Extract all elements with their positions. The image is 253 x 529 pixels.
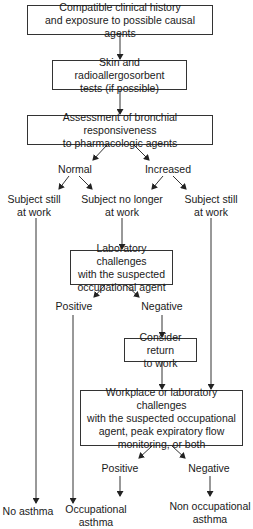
label-wp-negative: Negative: [186, 462, 232, 475]
text: Non occupational: [168, 500, 252, 513]
box-clinical-history: Compatible clinical historyand exposure …: [27, 5, 213, 35]
label-lab-positive: Positive: [52, 300, 96, 313]
text: Occupational: [64, 503, 128, 516]
text: Subject still: [180, 193, 242, 206]
label-normal: Normal: [55, 163, 95, 176]
box-bronchial-assessment: Assessment of bronchial responsivenessto…: [27, 115, 213, 145]
text: at work: [80, 206, 164, 219]
text: to work: [125, 357, 196, 370]
box-laboratory-challenges: Laboratory challengeswith the suspectedo…: [70, 250, 173, 285]
label-occupational-asthma: Occupationalasthma: [64, 503, 128, 529]
text: tests (if possible): [53, 82, 186, 95]
text: with the suspected occupational: [81, 412, 242, 425]
label-lab-negative: Negative: [139, 300, 185, 313]
text: agent, peak expiratory flow: [81, 425, 242, 438]
text: to pharmacologic agents: [28, 137, 212, 150]
box-skin-tests: Skin and radioallergosorbenttests (if po…: [52, 60, 187, 90]
label-increased: Increased: [143, 163, 193, 176]
box-consider-return-to-work: Consider returnto work: [124, 338, 197, 362]
text: at work: [180, 206, 242, 219]
label-no-asthma: No asthma: [2, 505, 54, 518]
text: Consider return: [125, 331, 196, 357]
text: occupational agent: [71, 281, 172, 294]
label-subject-still-at-work-right: Subject stillat work: [180, 193, 242, 219]
box-workplace-challenges: Workplace or laboratory challengeswith t…: [80, 390, 243, 446]
text: monitoring, or both: [81, 438, 242, 451]
label-subject-still-at-work-left: Subject stillat work: [3, 193, 65, 219]
label-wp-positive: Positive: [98, 462, 142, 475]
text: Skin and radioallergosorbent: [53, 56, 186, 82]
label-subject-no-longer-at-work: Subject no longerat work: [80, 193, 164, 219]
label-non-occupational-asthma: Non occupationalasthma: [168, 500, 252, 526]
text: Subject still: [3, 193, 65, 206]
text: Compatible clinical history: [28, 1, 212, 14]
text: at work: [3, 206, 65, 219]
text: Laboratory challenges: [71, 242, 172, 268]
text: Workplace or laboratory challenges: [81, 386, 242, 412]
text: asthma: [64, 516, 128, 529]
text: Subject no longer: [80, 193, 164, 206]
text: asthma: [168, 513, 252, 526]
text: Assessment of bronchial responsiveness: [28, 111, 212, 137]
text: with the suspected: [71, 268, 172, 281]
text: and exposure to possible causal agents: [28, 14, 212, 40]
